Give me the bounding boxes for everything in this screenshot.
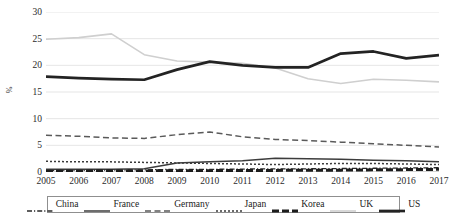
series-lines: [46, 34, 439, 171]
legend-swatch-japan: [216, 201, 242, 209]
legend-swatch-uk: [330, 201, 356, 209]
x-axis-tick: 2005: [37, 174, 56, 188]
legend-swatch-france: [84, 201, 110, 209]
y-axis-tick: 25: [18, 34, 42, 44]
x-axis-tick-labels: 2005200620072008200920102011201220132014…: [46, 174, 439, 190]
plot-area: [46, 12, 439, 172]
legend-label: UK: [359, 199, 373, 210]
x-axis-tick: 2006: [69, 174, 88, 188]
x-axis-tick: 2014: [331, 174, 350, 188]
x-axis-tick: 2009: [168, 174, 187, 188]
y-axis-tick: 20: [18, 60, 42, 70]
x-axis-tick: 2017: [430, 174, 449, 188]
x-axis-tick: 2016: [397, 174, 416, 188]
legend-label: Korea: [301, 199, 324, 210]
legend-swatch-china: [27, 201, 53, 209]
gridlines: [46, 12, 439, 172]
legend-item-germany[interactable]: Germany: [142, 199, 212, 210]
legend-item-japan[interactable]: Japan: [213, 199, 270, 210]
y-axis-tick: 15: [18, 87, 42, 97]
chart-legend: ChinaFranceGermanyJapanKoreaUKUS: [47, 196, 400, 213]
x-axis-tick: 2013: [299, 174, 318, 188]
legend-item-uk[interactable]: UK: [327, 199, 376, 210]
series-line-uk: [46, 34, 439, 84]
legend-item-us[interactable]: US: [376, 199, 423, 210]
legend-label: China: [56, 199, 79, 210]
x-axis-tick: 2008: [135, 174, 154, 188]
y-axis-title: %: [5, 82, 15, 98]
legend-item-korea[interactable]: Korea: [269, 199, 327, 210]
plot-svg: [46, 12, 439, 172]
y-axis-tick-labels: 302520151050: [18, 0, 42, 223]
x-axis-tick: 2015: [364, 174, 383, 188]
x-axis-tick: 2010: [200, 174, 219, 188]
legend-label: Germany: [174, 199, 209, 210]
legend-swatch-us: [379, 201, 405, 209]
legend-swatch-germany: [145, 201, 171, 209]
x-axis-tick: 2007: [102, 174, 121, 188]
legend-swatch-korea: [272, 201, 298, 209]
x-axis-tick: 2012: [266, 174, 285, 188]
legend-label: France: [113, 199, 139, 210]
legend-label: US: [408, 199, 420, 210]
series-line-germany: [46, 132, 439, 147]
legend-label: Japan: [245, 199, 267, 210]
x-axis-tick: 2011: [233, 174, 252, 188]
y-axis-tick: 10: [18, 114, 42, 124]
legend-item-france[interactable]: France: [81, 199, 142, 210]
legend-item-china[interactable]: China: [24, 199, 82, 210]
y-axis-tick: 5: [18, 140, 42, 150]
y-axis-tick: 30: [18, 7, 42, 17]
series-line-japan: [46, 161, 439, 164]
